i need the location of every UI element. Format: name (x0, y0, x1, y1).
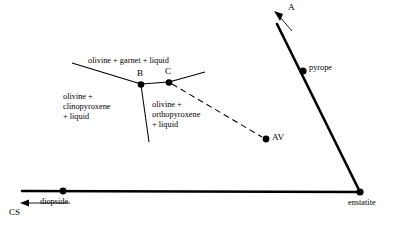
field-label-line-2: orthopyroxene (152, 110, 200, 120)
line-cotectic-left (72, 63, 141, 84)
line-b-c-boundary (141, 82, 169, 84)
point-b-dot (138, 81, 145, 88)
field-label-line-3: + liquid (152, 120, 200, 130)
field-label-olivine-garnet-liquid: olivine + garnet + liquid (88, 57, 169, 66)
field-label-olivine-clinopyroxene-liquid: olivine + clinopyroxene + liquid (63, 92, 110, 121)
point-label-b: B (137, 69, 143, 79)
field-label-olivine-orthopyroxene-liquid: olivine + orthopyroxene + liquid (152, 100, 200, 129)
point-pyrope-dot (299, 67, 306, 74)
point-label-a: A (288, 3, 295, 13)
field-label-line-1: olivine + (63, 92, 110, 102)
figure-canvas: olivine + garnet + liquid olivine + clin… (0, 0, 394, 229)
vertex-label-enstatite: enstatite (348, 199, 376, 208)
field-label-line-3: + liquid (63, 112, 110, 122)
point-label-c: C (165, 67, 171, 77)
line-enstatite-pyrope-join (277, 24, 360, 192)
point-c-dot (166, 79, 173, 86)
point-enstatite-dot (356, 188, 363, 195)
point-diopside-dot (60, 188, 67, 195)
line-cotectic-right (169, 72, 205, 82)
vertex-label-diopside: diopside (40, 198, 68, 207)
line-diopside-enstatite-join (22, 191, 360, 192)
field-label-line-1: olivine + (152, 100, 200, 110)
field-label-line-2: clinopyroxene (63, 102, 110, 112)
line-b-descender (141, 85, 149, 142)
vertex-label-pyrope: pyrope (309, 64, 332, 73)
axis-label-cs: CS (9, 208, 20, 218)
arrow-cs-head (20, 200, 29, 207)
point-av-dot (263, 136, 270, 143)
point-label-av: AV (272, 133, 284, 143)
